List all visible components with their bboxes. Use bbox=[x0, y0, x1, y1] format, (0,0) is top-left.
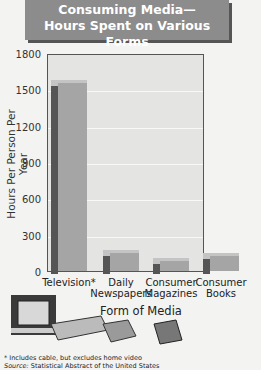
bar-1 bbox=[103, 253, 139, 271]
footnote-source: Source: Statistical Abstract of the Unit… bbox=[4, 362, 159, 370]
y-tick-label: 1800 bbox=[11, 49, 41, 60]
y-tick-label: 300 bbox=[11, 230, 41, 241]
bar-0 bbox=[51, 83, 87, 271]
y-tick-label: 0 bbox=[11, 267, 41, 278]
y-tick-label: 1500 bbox=[11, 85, 41, 96]
chart-title-box: Consuming Media— Hours Spent on Various … bbox=[25, 0, 229, 40]
source-label: Source: bbox=[4, 362, 29, 370]
footnote-cable: * Includes cable, but excludes home vide… bbox=[4, 354, 142, 362]
y-tick-label: 600 bbox=[11, 194, 41, 205]
plot-area bbox=[47, 54, 204, 272]
x-tick-label: ConsumerBooks bbox=[186, 277, 256, 299]
y-tick-label: 900 bbox=[11, 158, 41, 169]
chart-title-line1: Consuming Media— bbox=[25, 0, 229, 18]
source-text: Statistical Abstract of the United State… bbox=[31, 362, 160, 370]
chart-title-line2: Hours Spent on Various Forms bbox=[25, 18, 229, 50]
media-illustration-icon bbox=[6, 292, 186, 352]
bar-2 bbox=[153, 261, 189, 271]
bar-3 bbox=[203, 256, 239, 271]
y-tick-label: 1200 bbox=[11, 121, 41, 132]
